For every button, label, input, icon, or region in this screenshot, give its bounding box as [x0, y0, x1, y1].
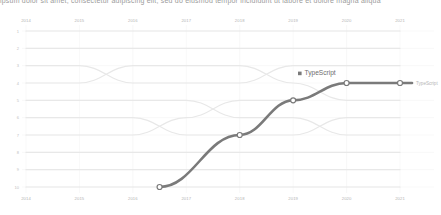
x-axis-label-top: 2015	[75, 18, 85, 23]
chart-canvas: 12345678910 2014201520162017201820192020…	[0, 9, 441, 215]
x-axis-label-top: 2018	[235, 18, 245, 23]
typescript-data-node[interactable]	[157, 185, 162, 190]
x-axis-label-top: 2020	[342, 18, 352, 23]
legend-label: TypeScript	[305, 69, 336, 77]
x-axis-label-group-bottom: 20142015201620172018201920202021	[21, 196, 405, 201]
x-axis-label-bottom: 2020	[342, 196, 352, 201]
y-axis-rank-label: 1	[17, 29, 20, 34]
gridline-group	[22, 31, 434, 187]
x-axis-label-top: 2017	[181, 18, 191, 23]
typescript-data-node[interactable]	[291, 98, 296, 103]
bump-chart-svg: 12345678910 2014201520162017201820192020…	[0, 9, 441, 215]
series-end-label: TypeScript	[416, 81, 438, 86]
background-series-background-line-7	[26, 83, 400, 135]
y-axis-rank-label: 10	[15, 185, 20, 190]
chart-legend[interactable]: TypeScript	[298, 69, 336, 77]
series-end-label-text: TypeScript	[416, 81, 438, 86]
y-axis-rank-label: 7	[17, 133, 20, 138]
background-series-group	[26, 31, 400, 187]
x-axis-label-top: 2014	[21, 18, 31, 23]
typescript-data-node[interactable]	[344, 81, 349, 86]
x-axis-label-bottom: 2014	[21, 196, 31, 201]
y-axis-rank-label: 3	[17, 63, 20, 68]
y-axis-rank-label: 5	[17, 98, 20, 103]
typescript-data-node[interactable]	[398, 81, 403, 86]
x-axis-label-top: 2016	[128, 18, 138, 23]
y-axis-rank-label: 2	[17, 46, 20, 51]
x-axis-label-bottom: 2018	[235, 196, 245, 201]
y-axis-rank-label: 6	[17, 115, 20, 120]
bump-chart-screenshot: ipsum dolor sit amet, consectetur adipis…	[0, 0, 441, 215]
background-series-background-line-5	[26, 118, 400, 135]
x-axis-label-bottom: 2017	[181, 196, 191, 201]
clipped-top-text-row: ipsum dolor sit amet, consectetur adipis…	[0, 0, 441, 9]
x-axis-label-top: 2021	[395, 18, 405, 23]
background-series-background-line-1	[26, 66, 400, 83]
y-axis-rank-label: 8	[17, 150, 20, 155]
legend-swatch-icon	[298, 72, 302, 76]
x-axis-label-group-top: 20142015201620172018201920202021	[21, 18, 405, 23]
x-axis-label-bottom: 2015	[75, 196, 85, 201]
y-axis-rank-label: 9	[17, 167, 20, 172]
y-axis-rank-label: 4	[17, 81, 20, 86]
clipped-top-text: ipsum dolor sit amet, consectetur adipis…	[0, 0, 381, 5]
x-axis-label-bottom: 2016	[128, 196, 138, 201]
x-axis-label-bottom: 2021	[395, 196, 405, 201]
y-axis-rank-label-group: 12345678910	[15, 29, 20, 190]
x-axis-label-top: 2019	[288, 18, 298, 23]
typescript-data-node[interactable]	[237, 133, 242, 138]
x-axis-label-bottom: 2019	[288, 196, 298, 201]
